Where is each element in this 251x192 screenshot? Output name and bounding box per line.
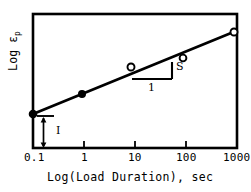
- x-tick-label-4: 1000: [223, 152, 250, 163]
- y-axis-title-prefix: Log: [6, 42, 20, 71]
- chart-figure: 0.1 1 10 100 1000 Log(Load Duration), se…: [0, 0, 251, 192]
- data-point-open-10: [128, 64, 135, 71]
- plot-frame: [33, 14, 237, 148]
- x-tick-label-3: 100: [176, 152, 196, 163]
- x-tick-label-1: 1: [81, 152, 88, 163]
- y-axis-title-symbol: ε: [6, 36, 20, 42]
- y-axis-title: Log εp: [5, 21, 23, 81]
- axes-border: [33, 14, 237, 148]
- intercept-arrow: [37, 116, 54, 148]
- data-point-filled-0p1: [29, 110, 36, 117]
- x-axis-title: Log(Load Duration), sec: [47, 172, 213, 184]
- x-tick-label-2: 10: [128, 152, 142, 163]
- trend-line: [33, 31, 236, 114]
- annotation-label-run: 1: [148, 82, 155, 93]
- best-fit-line: [33, 31, 236, 114]
- annotation-label-slope: S: [176, 61, 184, 72]
- x-tick-label-0: 0.1: [24, 152, 44, 163]
- y-axis-title-subscript: p: [13, 31, 22, 36]
- data-point-open-1000: [231, 29, 238, 36]
- annotation-label-intercept: I: [56, 125, 60, 136]
- data-point-filled-1: [79, 91, 86, 98]
- intercept-arrowhead-up: [41, 117, 47, 123]
